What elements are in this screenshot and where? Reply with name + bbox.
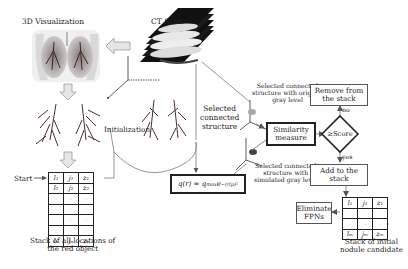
cell: jₙ: [64, 236, 79, 247]
cell: ·: [358, 219, 373, 230]
cell: z₁: [79, 173, 94, 184]
table-row: ···: [49, 215, 94, 226]
cell: ·: [343, 208, 358, 219]
cell: lₘ: [343, 229, 358, 240]
label-simulated-gray-level: Selected connected structure with simula…: [254, 162, 318, 183]
formula-exponent: −(r/ρ)²: [221, 180, 238, 189]
airway-tree-center-image: [142, 100, 186, 140]
cell: ·: [64, 225, 79, 236]
table-row: ···: [343, 219, 388, 230]
cell: ·: [64, 215, 79, 226]
cell: z₁: [373, 198, 388, 209]
cell: ·: [343, 219, 358, 230]
cell: jₘ: [358, 229, 373, 240]
table-row: lₙjₙzₙ: [49, 236, 94, 247]
table-row: l₁j₁z₁: [49, 173, 94, 184]
cell: ·: [49, 194, 64, 205]
table-row: ···: [49, 194, 94, 205]
cell: zₘ: [373, 229, 388, 240]
cell: zₙ: [79, 236, 94, 247]
stack-all-locations-table: l₁j₁z₁ l₂j₂z₂ ··· ··· ··· ··· lₙjₙzₙ: [48, 172, 94, 247]
gaussian-formula-box: q(r) = qmax e−(r/ρ)²: [170, 174, 246, 194]
stack-initial-candidates-table: l₁j₁z₁ ··· ··· lₘjₘzₘ: [342, 197, 388, 240]
cell: ·: [79, 194, 94, 205]
label-yes: yes: [342, 153, 352, 160]
decision-score-label: ≥Score: [326, 130, 354, 138]
cell: ·: [79, 225, 94, 236]
label-selected-connected-structure: Selected connected structure: [200, 104, 239, 131]
label-stack-initial-candidates: Stack of initial nodule candidate: [340, 238, 403, 254]
cell: j₂: [64, 183, 79, 194]
remove-from-stack-box: Remove from the stack: [310, 84, 368, 106]
table-row: l₁j₁z₁: [343, 198, 388, 209]
formula-q: q(r) = q: [178, 180, 206, 189]
cell: ·: [49, 225, 64, 236]
table-row: l₂j₂z₂: [49, 183, 94, 194]
cell: ·: [64, 194, 79, 205]
cell: l₁: [49, 173, 64, 184]
cell: ·: [373, 208, 388, 219]
eliminate-fpns-box: Eliminate FPNs: [296, 202, 332, 224]
label-start: Start: [14, 175, 32, 183]
cell: z₂: [79, 183, 94, 194]
lung-3d-visualization-image: [32, 30, 100, 82]
title-ct-scan: CT Scan: [151, 18, 183, 26]
arrow-ct-to-visualization: [106, 38, 130, 54]
cell: j₁: [64, 173, 79, 184]
table-row: lₘjₘzₘ: [343, 229, 388, 240]
original-gray-structure-image: [240, 100, 268, 130]
cell: ·: [64, 204, 79, 215]
table-row: ···: [49, 225, 94, 236]
table-row: ···: [343, 208, 388, 219]
cell: ·: [358, 208, 373, 219]
formula-max: max: [206, 180, 217, 189]
label-initialization: Initialization: [104, 126, 150, 134]
airway-tree-left-image: [36, 104, 100, 146]
cell: l₂: [49, 183, 64, 194]
label-no: no: [342, 106, 350, 113]
cell: l₁: [343, 198, 358, 209]
cell: ·: [79, 204, 94, 215]
cell: ·: [49, 204, 64, 215]
cell: ·: [79, 215, 94, 226]
title-3d-visualization: 3D Visualization: [22, 18, 84, 26]
cell: ·: [373, 219, 388, 230]
cell: lₙ: [49, 236, 64, 247]
similarity-measure-box: Similarity measure: [266, 122, 316, 146]
connector-stack-to-tree: [104, 142, 196, 178]
cell: j₁: [358, 198, 373, 209]
arrow-visualization-down: [60, 84, 76, 100]
arrow-tree-to-stack: [60, 152, 76, 168]
cell: ·: [49, 215, 64, 226]
table-row: ···: [49, 204, 94, 215]
add-to-stack-box: Add to the stack: [310, 164, 368, 186]
